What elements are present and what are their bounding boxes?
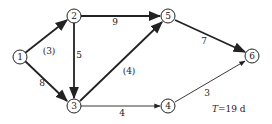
node-label: 6	[249, 51, 255, 61]
node-3: 3	[67, 99, 81, 113]
edge-label-3-4: 4	[119, 108, 125, 118]
node-4: 4	[161, 99, 175, 113]
network-diagram: (3) 8 5 9 (4) 4 7 3 1 2 3 4 5 6 T=19 d	[0, 0, 272, 124]
edge-label-3-5: (4)	[123, 66, 136, 76]
edge-5-6	[175, 20, 245, 52]
node-1: 1	[13, 50, 27, 64]
duration-value: =19 d	[218, 104, 246, 114]
total-duration-note: T=19 d	[212, 104, 246, 114]
node-2: 2	[67, 9, 81, 23]
node-5: 5	[161, 9, 175, 23]
node-label: 4	[165, 101, 171, 111]
edge-label-1-3: 8	[39, 78, 45, 88]
edge-label-2-5: 9	[112, 17, 118, 27]
edge-label-2-3: 5	[76, 50, 82, 60]
edge-label-1-2: (3)	[43, 46, 56, 56]
edge-3-5	[80, 22, 162, 101]
node-6: 6	[245, 49, 259, 63]
node-label: 1	[17, 52, 23, 62]
edge-1-3	[25, 61, 67, 101]
edge-label-4-6: 3	[204, 88, 210, 98]
node-label: 2	[71, 11, 77, 21]
node-label: 3	[71, 101, 77, 111]
edge-4-6	[175, 61, 245, 102]
edge-label-5-6: 7	[201, 36, 207, 46]
node-label: 5	[165, 11, 171, 21]
